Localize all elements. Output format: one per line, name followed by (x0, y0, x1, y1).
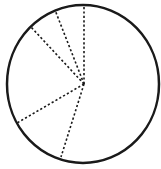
sector-diagram (0, 0, 161, 169)
dotted-radii (17, 4, 84, 157)
dotted-radius-line (17, 84, 84, 123)
dotted-radius-line (55, 10, 84, 84)
dotted-radius-line (31, 27, 84, 84)
